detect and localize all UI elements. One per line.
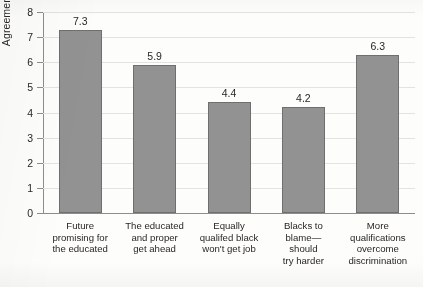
y-tick-label: 6 xyxy=(9,56,33,68)
category-label: Morequalificationsovercomediscrimination xyxy=(336,220,420,266)
category-label-line: try harder xyxy=(261,255,345,267)
y-tick-mark xyxy=(37,62,43,63)
bar xyxy=(133,65,176,213)
y-tick-mark xyxy=(37,37,43,38)
y-tick-label: 1 xyxy=(9,182,33,194)
y-tick-label: 8 xyxy=(9,6,33,18)
y-tick-mark xyxy=(37,87,43,88)
category-label-line: Equally xyxy=(187,220,271,232)
bar-value-label: 4.4 xyxy=(222,87,237,99)
x-axis-spine xyxy=(43,213,415,214)
category-label-line: get ahead xyxy=(113,243,197,255)
bar xyxy=(59,30,102,213)
y-tick-mark xyxy=(37,188,43,189)
category-label-line: Future xyxy=(38,220,122,232)
category-label-line: qualifed black xyxy=(187,232,271,244)
category-label-line: Blacks to xyxy=(261,220,345,232)
gridline xyxy=(43,12,415,13)
y-tick-mark xyxy=(37,113,43,114)
category-label-line: won't get job xyxy=(187,243,271,255)
y-tick-mark xyxy=(37,138,43,139)
y-tick-label: 7 xyxy=(9,31,33,43)
category-label: Equallyqualifed blackwon't get job xyxy=(187,220,271,255)
y-tick-label: 4 xyxy=(9,107,33,119)
category-label-line: The educated xyxy=(113,220,197,232)
plot-area xyxy=(43,12,415,213)
category-label-line: and proper xyxy=(113,232,197,244)
y-tick-label: 2 xyxy=(9,157,33,169)
bar-chart-figure: Agreement scale 012345678 7.35.94.44.26.… xyxy=(0,0,423,287)
category-label-line: promising for xyxy=(38,232,122,244)
category-label: Blacks toblame—shouldtry harder xyxy=(261,220,345,266)
category-label-line: overcome xyxy=(336,243,420,255)
y-tick-mark xyxy=(37,12,43,13)
y-tick-label: 5 xyxy=(9,81,33,93)
bar xyxy=(356,55,399,213)
bar-value-label: 5.9 xyxy=(147,50,162,62)
y-tick-mark xyxy=(37,213,43,214)
bar xyxy=(208,102,251,213)
y-tick-mark xyxy=(37,163,43,164)
category-label-line: discrimination xyxy=(336,255,420,267)
category-label-line: qualifications xyxy=(336,232,420,244)
category-label-line: More xyxy=(336,220,420,232)
y-tick-label: 3 xyxy=(9,132,33,144)
y-tick-label: 0 xyxy=(9,207,33,219)
bar-value-label: 6.3 xyxy=(370,40,385,52)
category-label-line: the educated xyxy=(38,243,122,255)
bar xyxy=(282,107,325,213)
category-label: Futurepromising forthe educated xyxy=(38,220,122,255)
category-label-line: should xyxy=(261,243,345,255)
category-label-line: blame— xyxy=(261,232,345,244)
category-label: The educatedand properget ahead xyxy=(113,220,197,255)
bar-value-label: 4.2 xyxy=(296,92,311,104)
bar-value-label: 7.3 xyxy=(73,15,88,27)
